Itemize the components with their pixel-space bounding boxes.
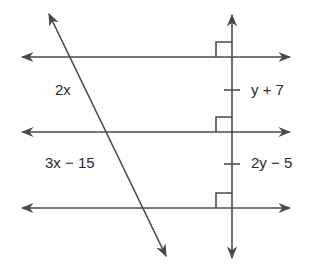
label-y-plus-7: y + 7 <box>251 81 284 98</box>
parallel-lines-diagram <box>0 0 327 270</box>
right-angle-marker-1 <box>216 42 232 57</box>
right-angle-marker-2 <box>216 117 232 132</box>
right-angle-marker-3 <box>216 193 232 208</box>
label-3x-minus-15: 3x − 15 <box>45 154 95 171</box>
label-2x: 2x <box>55 81 71 98</box>
transversal-line <box>49 14 166 256</box>
label-2y-minus-5: 2y − 5 <box>251 154 292 171</box>
